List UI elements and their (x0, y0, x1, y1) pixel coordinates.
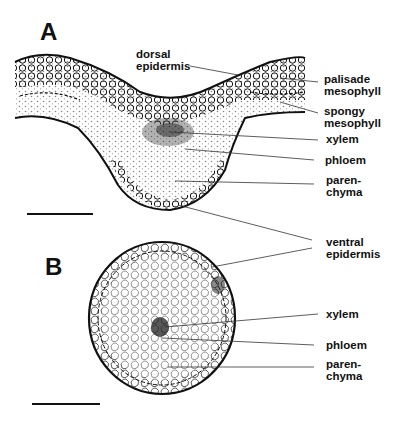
label-parenchyma-a: paren- chyma (326, 174, 362, 198)
label-palisade-mesophyll: palisade mesophyll (324, 73, 381, 97)
label-phloem-a: phloem (325, 154, 366, 166)
label-xylem-b: xylem (326, 308, 359, 320)
label-dorsal-epidermis: dorsal epidermis (136, 48, 190, 72)
panel-label-a: A (40, 20, 57, 44)
panel-b-section (80, 235, 245, 405)
label-parenchyma-b: paren- chyma (326, 358, 362, 382)
label-ventral-epidermis: ventral epidermis (326, 236, 380, 260)
label-phloem-b: phloem (326, 339, 367, 351)
panel-label-b: B (45, 255, 62, 279)
label-xylem-a: xylem (326, 133, 359, 145)
label-spongy-mesophyll: spongy mesophyll (324, 105, 381, 129)
